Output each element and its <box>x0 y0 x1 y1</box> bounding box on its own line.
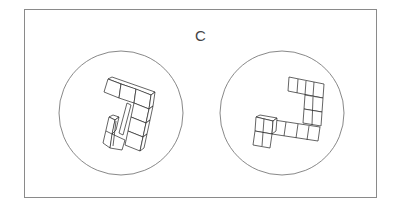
left-circle <box>59 51 183 175</box>
right-cube-figure <box>253 77 324 148</box>
right-circle <box>220 51 344 175</box>
left-cube-figure <box>103 77 155 151</box>
figure-drawing <box>0 0 400 210</box>
